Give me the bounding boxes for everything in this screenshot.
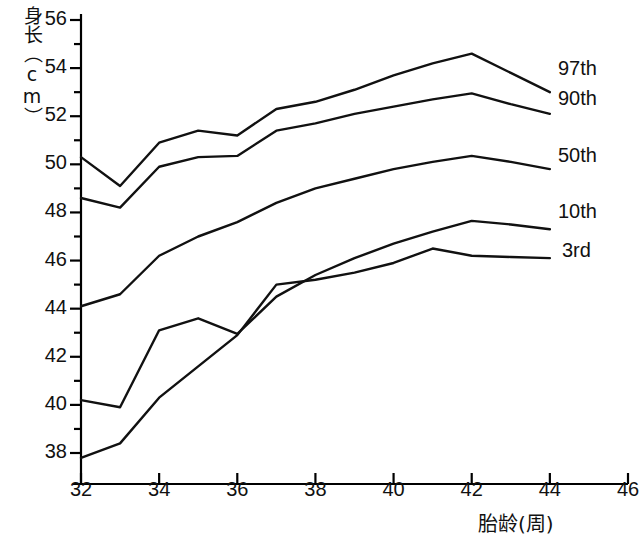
y-tick-label: 54 xyxy=(27,55,67,78)
y-tick-label: 52 xyxy=(27,103,67,126)
series-label-3rd: 3rd xyxy=(562,239,591,262)
x-tick-label: 40 xyxy=(374,478,414,501)
y-tick-label: 48 xyxy=(27,199,67,222)
series-label-97th: 97th xyxy=(558,57,597,80)
series-label-50th: 50th xyxy=(558,144,597,167)
x-axis-label: 胎龄(周) xyxy=(478,508,554,537)
y-tick-label: 42 xyxy=(27,344,67,367)
x-tick-label: 44 xyxy=(530,478,570,501)
y-tick-label: 56 xyxy=(27,7,67,30)
series-label-10th: 10th xyxy=(558,200,597,223)
y-tick-label: 44 xyxy=(27,296,67,319)
series-label-90th: 90th xyxy=(558,87,597,110)
x-tick-label: 32 xyxy=(61,478,101,501)
y-tick-label: 38 xyxy=(27,440,67,463)
y-tick-label: 40 xyxy=(27,392,67,415)
x-tick-label: 42 xyxy=(452,478,492,501)
chart-curves xyxy=(81,54,550,458)
curve-50th xyxy=(81,156,550,306)
curve-10th xyxy=(81,221,550,407)
x-tick-label: 34 xyxy=(139,478,179,501)
x-tick-label: 46 xyxy=(608,478,643,501)
curve-97th xyxy=(81,54,550,186)
y-tick-label: 46 xyxy=(27,248,67,271)
chart-axes xyxy=(70,14,628,484)
curve-3rd xyxy=(81,249,550,458)
x-tick-label: 36 xyxy=(217,478,257,501)
y-tick-label: 50 xyxy=(27,151,67,174)
x-tick-label: 38 xyxy=(295,478,335,501)
